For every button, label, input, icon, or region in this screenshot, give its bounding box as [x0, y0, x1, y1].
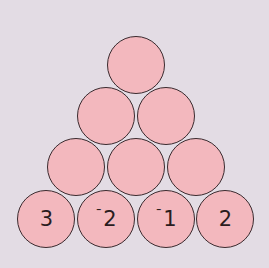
- pyramid-cell-base-2: ¯2: [77, 190, 135, 248]
- pyramid-cell-base-4: 2: [196, 190, 254, 248]
- negative-sign: ¯: [155, 207, 162, 223]
- pyramid-cell-r3-2: [107, 138, 165, 196]
- pyramid-cell-base-3: ¯1: [137, 190, 195, 248]
- negative-sign: ¯: [95, 207, 102, 223]
- cell-value: 1: [163, 207, 176, 231]
- pyramid-cell-base-1: 3: [17, 190, 75, 248]
- cell-value: 2: [219, 207, 232, 231]
- pyramid-cell-r3-1: [47, 138, 105, 196]
- pyramid-cell-r2-1: [77, 87, 135, 145]
- cell-value: 3: [40, 207, 53, 231]
- cell-value: 2: [103, 207, 116, 231]
- pyramid-cell-top: [107, 36, 165, 94]
- pyramid-cell-r2-2: [137, 87, 195, 145]
- pyramid-cell-r3-3: [167, 138, 225, 196]
